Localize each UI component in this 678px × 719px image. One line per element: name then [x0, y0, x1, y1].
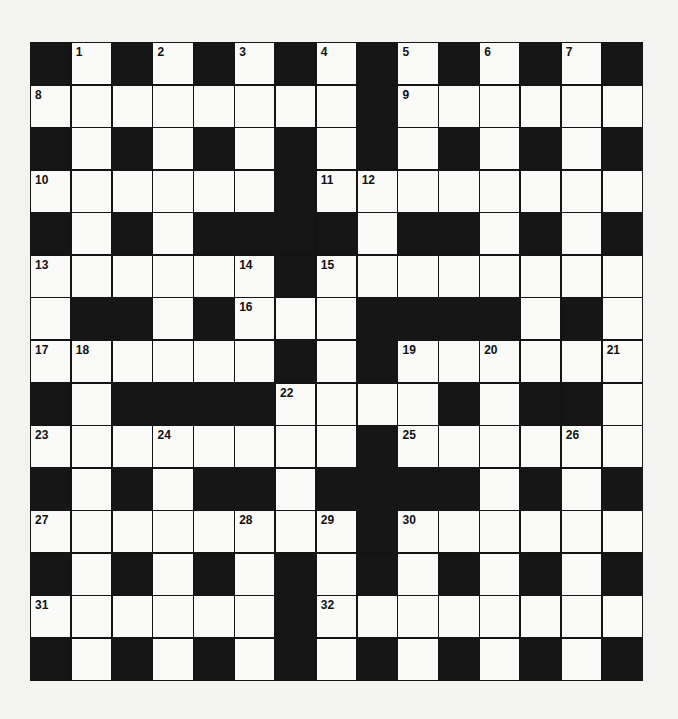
- crossword-cell[interactable]: [480, 213, 519, 254]
- crossword-cell[interactable]: [72, 596, 111, 637]
- crossword-cell[interactable]: [153, 213, 192, 254]
- crossword-cell[interactable]: 29: [317, 511, 356, 552]
- crossword-cell[interactable]: 14: [235, 256, 274, 297]
- crossword-cell[interactable]: 3: [235, 43, 274, 84]
- crossword-cell[interactable]: [153, 511, 192, 552]
- crossword-cell[interactable]: [521, 256, 560, 297]
- crossword-cell[interactable]: [235, 86, 274, 127]
- crossword-cell[interactable]: [317, 639, 356, 680]
- crossword-cell[interactable]: [276, 298, 315, 339]
- crossword-cell[interactable]: [194, 511, 233, 552]
- crossword-cell[interactable]: [72, 426, 111, 467]
- crossword-cell[interactable]: [194, 596, 233, 637]
- crossword-cell[interactable]: [72, 511, 111, 552]
- crossword-cell[interactable]: [153, 171, 192, 212]
- crossword-cell[interactable]: [358, 213, 397, 254]
- crossword-cell[interactable]: [439, 341, 478, 382]
- crossword-cell[interactable]: [194, 256, 233, 297]
- crossword-cell[interactable]: [235, 341, 274, 382]
- crossword-cell[interactable]: [562, 171, 601, 212]
- crossword-cell[interactable]: [276, 86, 315, 127]
- crossword-cell[interactable]: [153, 469, 192, 510]
- crossword-cell[interactable]: [398, 128, 437, 169]
- crossword-cell[interactable]: [562, 639, 601, 680]
- crossword-cell[interactable]: 30: [398, 511, 437, 552]
- crossword-cell[interactable]: [194, 426, 233, 467]
- crossword-cell[interactable]: [235, 426, 274, 467]
- crossword-cell[interactable]: [398, 554, 437, 595]
- crossword-cell[interactable]: [562, 511, 601, 552]
- crossword-cell[interactable]: [521, 86, 560, 127]
- crossword-cell[interactable]: [521, 596, 560, 637]
- crossword-cell[interactable]: [153, 298, 192, 339]
- crossword-cell[interactable]: [480, 554, 519, 595]
- crossword-cell[interactable]: 19: [398, 341, 437, 382]
- crossword-cell[interactable]: 15: [317, 256, 356, 297]
- crossword-cell[interactable]: [480, 128, 519, 169]
- crossword-cell[interactable]: [603, 298, 642, 339]
- crossword-cell[interactable]: [317, 86, 356, 127]
- crossword-cell[interactable]: 7: [562, 43, 601, 84]
- crossword-cell[interactable]: [153, 341, 192, 382]
- crossword-cell[interactable]: 25: [398, 426, 437, 467]
- crossword-cell[interactable]: 5: [398, 43, 437, 84]
- crossword-cell[interactable]: [72, 469, 111, 510]
- crossword-cell[interactable]: [317, 426, 356, 467]
- crossword-cell[interactable]: [398, 596, 437, 637]
- crossword-cell[interactable]: [603, 511, 642, 552]
- crossword-cell[interactable]: [153, 86, 192, 127]
- crossword-cell[interactable]: [603, 256, 642, 297]
- crossword-cell[interactable]: [276, 469, 315, 510]
- crossword-cell[interactable]: 27: [31, 511, 70, 552]
- crossword-cell[interactable]: 20: [480, 341, 519, 382]
- crossword-cell[interactable]: [153, 554, 192, 595]
- crossword-cell[interactable]: [194, 341, 233, 382]
- crossword-cell[interactable]: [72, 554, 111, 595]
- crossword-cell[interactable]: [398, 639, 437, 680]
- crossword-cell[interactable]: [113, 511, 152, 552]
- crossword-cell[interactable]: [235, 554, 274, 595]
- crossword-cell[interactable]: [72, 384, 111, 425]
- crossword-cell[interactable]: [521, 511, 560, 552]
- crossword-cell[interactable]: [317, 341, 356, 382]
- crossword-cell[interactable]: [235, 128, 274, 169]
- crossword-cell[interactable]: [113, 256, 152, 297]
- crossword-cell[interactable]: [439, 426, 478, 467]
- crossword-cell[interactable]: [72, 171, 111, 212]
- crossword-cell[interactable]: [521, 171, 560, 212]
- crossword-cell[interactable]: [317, 554, 356, 595]
- crossword-cell[interactable]: [317, 298, 356, 339]
- crossword-cell[interactable]: [480, 171, 519, 212]
- crossword-cell[interactable]: 16: [235, 298, 274, 339]
- crossword-cell[interactable]: [480, 384, 519, 425]
- crossword-cell[interactable]: [72, 256, 111, 297]
- crossword-cell[interactable]: [603, 384, 642, 425]
- crossword-cell[interactable]: 10: [31, 171, 70, 212]
- crossword-cell[interactable]: [358, 596, 397, 637]
- crossword-cell[interactable]: [603, 171, 642, 212]
- crossword-cell[interactable]: 6: [480, 43, 519, 84]
- crossword-cell[interactable]: [235, 596, 274, 637]
- crossword-cell[interactable]: [317, 384, 356, 425]
- crossword-cell[interactable]: [480, 511, 519, 552]
- crossword-cell[interactable]: [439, 171, 478, 212]
- crossword-cell[interactable]: [562, 128, 601, 169]
- crossword-cell[interactable]: [603, 86, 642, 127]
- crossword-cell[interactable]: [276, 511, 315, 552]
- crossword-cell[interactable]: [480, 86, 519, 127]
- crossword-cell[interactable]: [439, 596, 478, 637]
- crossword-cell[interactable]: [194, 86, 233, 127]
- crossword-cell[interactable]: 21: [603, 341, 642, 382]
- crossword-cell[interactable]: [235, 639, 274, 680]
- crossword-cell[interactable]: [439, 511, 478, 552]
- crossword-cell[interactable]: [235, 171, 274, 212]
- crossword-cell[interactable]: [113, 426, 152, 467]
- crossword-cell[interactable]: 8: [31, 86, 70, 127]
- crossword-cell[interactable]: [153, 256, 192, 297]
- crossword-cell[interactable]: 2: [153, 43, 192, 84]
- crossword-cell[interactable]: [276, 426, 315, 467]
- crossword-cell[interactable]: [153, 639, 192, 680]
- crossword-cell[interactable]: 1: [72, 43, 111, 84]
- crossword-cell[interactable]: 12: [358, 171, 397, 212]
- crossword-cell[interactable]: [72, 128, 111, 169]
